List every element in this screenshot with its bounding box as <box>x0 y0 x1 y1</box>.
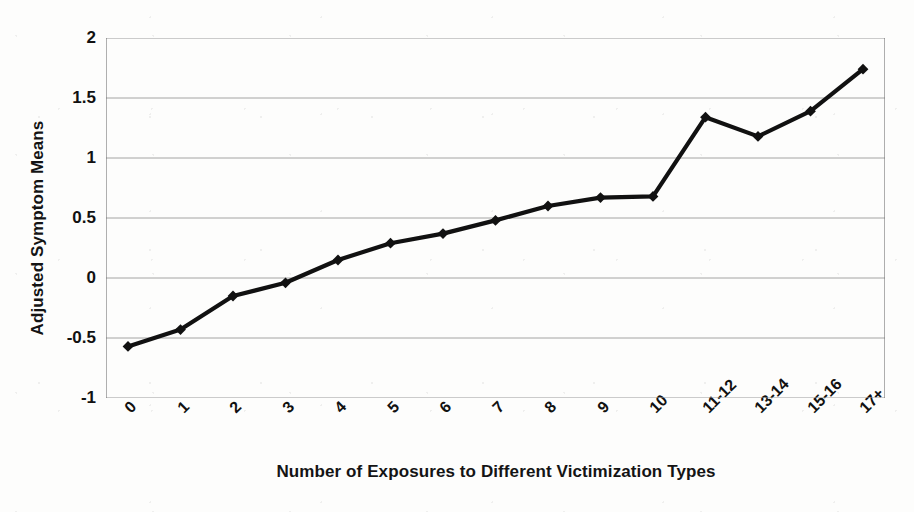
x-axis-tick-label: 9 <box>594 398 613 417</box>
data-point-marker <box>490 215 501 226</box>
x-axis-tick-label: 3 <box>279 398 298 417</box>
plot-area <box>106 38 885 398</box>
data-series-line <box>128 69 863 346</box>
x-axis-tick-label: 0 <box>121 398 140 417</box>
data-point-marker <box>543 201 554 212</box>
x-axis-tick-label: 8 <box>541 398 560 417</box>
x-axis-tick-label: 2 <box>226 398 245 417</box>
data-point-marker <box>595 192 606 203</box>
x-axis-tick-label: 5 <box>384 398 403 417</box>
data-point-marker <box>385 238 396 249</box>
data-point-marker <box>123 341 134 352</box>
data-point-markers <box>123 64 869 352</box>
x-axis-title: Number of Exposures to Different Victimi… <box>106 462 886 482</box>
x-axis-tick-label: 7 <box>489 398 508 417</box>
x-axis-tick-label: 4 <box>331 398 350 417</box>
chart-figure: Adjusted Symptom Means 21.510.50-0.5-1 0… <box>0 0 914 512</box>
x-axis-tick-label: 1 <box>174 398 193 417</box>
x-axis-tick-label: 6 <box>436 398 455 417</box>
line-chart-svg <box>106 38 885 398</box>
data-point-marker <box>438 228 449 239</box>
